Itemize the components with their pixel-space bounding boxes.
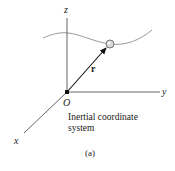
x-axis xyxy=(24,92,67,133)
position-vector-r xyxy=(67,48,106,92)
origin-label: O xyxy=(63,98,70,108)
origin-point xyxy=(65,90,69,94)
vector-r-label: r xyxy=(91,64,95,74)
coordinate-diagram xyxy=(0,0,175,171)
x-axis-label: x xyxy=(14,136,18,146)
figure-sublabel: (a) xyxy=(85,149,95,158)
caption-line-2: system xyxy=(68,124,94,134)
diagram-canvas: z y x O r Inertial coordinate system (a) xyxy=(0,0,175,171)
particle-path-curve xyxy=(43,30,152,44)
z-axis-label: z xyxy=(64,5,68,15)
caption-line-1: Inertial coordinate xyxy=(68,113,138,123)
y-axis-label: y xyxy=(162,87,166,97)
particle-highlight xyxy=(108,42,111,45)
